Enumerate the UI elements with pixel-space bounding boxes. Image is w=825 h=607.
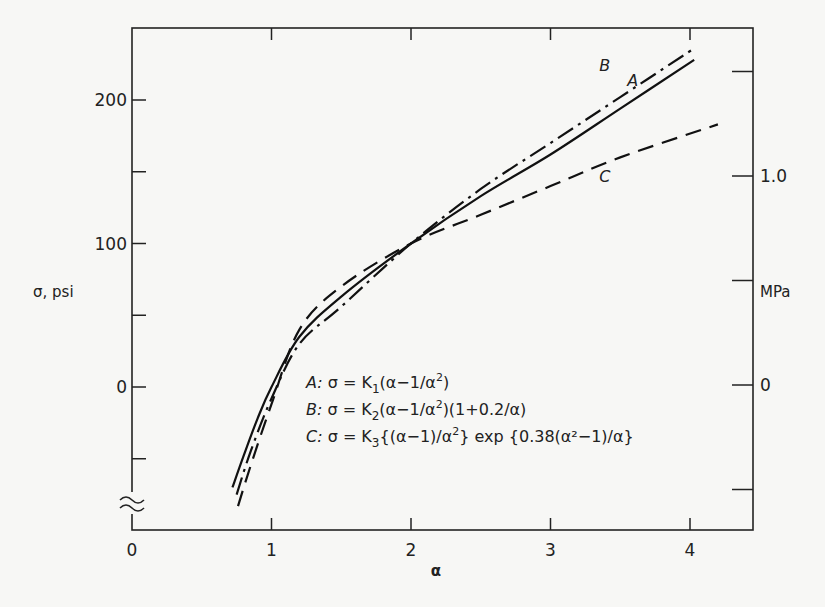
x-tick-label: 0	[127, 540, 138, 560]
legend-equation-b: B: σ = K2(α−1/α2)(1+0.2/α)	[306, 398, 526, 423]
right-tick-label: 0	[760, 375, 771, 395]
x-axis-label: α	[431, 562, 441, 580]
axis-ticks	[132, 28, 753, 530]
x-tick-label: 4	[685, 540, 696, 560]
tick-labels: 01234010020001.0	[95, 90, 788, 560]
plot-frame	[132, 28, 753, 530]
curve-a	[232, 60, 694, 488]
right-tick-label: 1.0	[760, 166, 787, 186]
x-tick-label: 1	[266, 540, 277, 560]
legend-equation-a: A: σ = K1(α−1/α2)	[305, 371, 449, 396]
y-tick-label: 100	[95, 234, 127, 254]
curve-label-b: B	[599, 56, 610, 75]
y-axis-label-right: MPa	[760, 283, 791, 301]
x-tick-label: 2	[406, 540, 417, 560]
stress-strain-chart: 01234010020001.0 ABC σ, psi MPa α A: σ =…	[0, 0, 825, 607]
y-tick-label: 200	[95, 90, 127, 110]
curve-c	[238, 124, 718, 506]
legend-equation-c: C: σ = K3{(α−1)/α2} exp {0.38(α²−1)/α}	[306, 425, 634, 450]
curve-annotations: ABC	[599, 56, 638, 185]
y-tick-label: 0	[116, 377, 127, 397]
equation-legend: A: σ = K1(α−1/α2)B: σ = K2(α−1/α2)(1+0.2…	[305, 371, 634, 450]
curve-label-a: A	[626, 71, 638, 90]
curve-label-c: C	[599, 167, 611, 186]
x-tick-label: 3	[545, 540, 556, 560]
y-axis-label-left: σ, psi	[33, 283, 74, 301]
axis-break-icon	[118, 492, 148, 514]
